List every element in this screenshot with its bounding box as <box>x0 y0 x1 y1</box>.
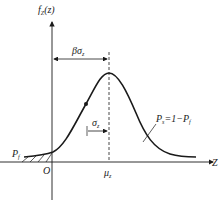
y-axis-label: fZ(z) <box>38 4 55 16</box>
inflection-point <box>84 102 88 106</box>
reliability-diagram: fZ(z) βσz σz Pf Ps=1−Pf O μz Z <box>0 0 220 201</box>
origin-label: O <box>43 165 50 176</box>
beta-sigma-label: βσz <box>71 45 85 57</box>
mean-label: μz <box>103 167 112 179</box>
failure-prob-label: Pf <box>11 148 21 160</box>
reliability-label: Ps=1−Pf <box>155 113 192 125</box>
x-axis-label: Z <box>212 157 218 168</box>
sigma-label: σz <box>92 117 100 129</box>
